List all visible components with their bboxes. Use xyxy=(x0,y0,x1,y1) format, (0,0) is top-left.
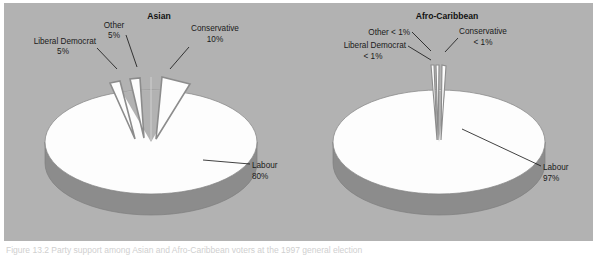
asian-labour-value: 80% xyxy=(252,172,268,181)
afro-labour-label: Labour xyxy=(543,163,569,172)
asian-liberal-democrat-value: 5% xyxy=(57,47,69,56)
figure-caption: Figure 13.2 Party support among Asian an… xyxy=(6,245,591,255)
pie-chart-asian: Asian Liberal Democrat 5% Other 5% Conse… xyxy=(4,3,299,241)
afro-liberal-democrat-label: Liberal Democrat xyxy=(344,41,407,50)
afro-liberal-democrat-value: < 1% xyxy=(364,52,383,61)
asian-conservative-value: 10% xyxy=(207,35,223,44)
asian-liberal-democrat-leader xyxy=(97,48,117,69)
asian-liberal-democrat-label: Liberal Democrat xyxy=(34,37,97,46)
afro-labour-slice[interactable] xyxy=(333,90,545,215)
pie-chart-afro-caribbean: Afro-Caribbean Other < 1% Liberal Democr… xyxy=(298,3,593,241)
afro-caribbean-pie-svg: Afro-Caribbean Other < 1% Liberal Democr… xyxy=(298,3,593,241)
asian-conservative-leader xyxy=(170,47,189,69)
afro-conservative-leader xyxy=(445,38,458,52)
asian-labour-label: Labour xyxy=(252,161,278,170)
afro-conservative-label: Conservative xyxy=(459,27,507,36)
afro-labour-value: 97% xyxy=(543,174,559,183)
asian-title: Asian xyxy=(147,11,170,21)
asian-pie-svg: Asian Liberal Democrat 5% Other 5% Conse… xyxy=(4,3,299,241)
afro-other-leader xyxy=(412,32,431,51)
asian-other-leader xyxy=(126,35,137,67)
afro-caribbean-title: Afro-Caribbean xyxy=(416,11,479,21)
asian-conservative-label: Conservative xyxy=(191,24,239,33)
asian-other-label: Other xyxy=(104,21,125,30)
afro-other-label: Other < 1% xyxy=(368,28,410,37)
asian-other-value: 5% xyxy=(108,31,120,40)
figure-container: Asian Liberal Democrat 5% Other 5% Conse… xyxy=(0,0,597,255)
chart-panel: Asian Liberal Democrat 5% Other 5% Conse… xyxy=(4,3,593,241)
afro-conservative-value: < 1% xyxy=(474,38,493,47)
